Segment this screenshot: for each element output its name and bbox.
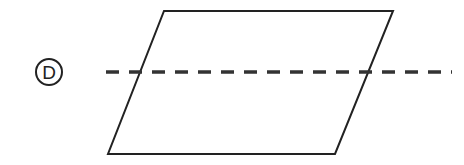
parallelogram-shape	[108, 11, 393, 154]
diagram-canvas: D	[0, 0, 464, 165]
diagram-figure	[0, 0, 464, 165]
